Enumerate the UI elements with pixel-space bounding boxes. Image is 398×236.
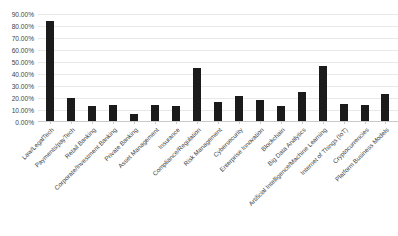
x-axis-tick [281,122,282,124]
bar-slot [82,14,103,122]
x-axis-tick [218,122,219,124]
bar[interactable] [109,105,117,122]
y-axis-tick-label: 20.00% [12,95,34,102]
bar-slot [166,14,187,122]
x-axis-tick [92,122,93,124]
bar-slot [187,14,208,122]
bar-slot [124,14,145,122]
x-axis-tick [71,122,72,124]
y-axis-tick-label: 30.00% [12,83,34,90]
x-axis-tick [385,122,386,124]
y-axis-tick-label: 10.00% [12,107,34,114]
bar-chart: 90.00%80.00%70.00%60.00%50.00%40.00%30.0… [0,0,398,236]
y-axis-tick-label: 60.00% [12,47,34,54]
y-axis-tick-label: 40.00% [12,71,34,78]
bar[interactable] [214,102,222,122]
bar[interactable] [277,106,285,122]
bars-layer [38,14,398,122]
bar[interactable] [340,104,348,122]
bar-slot [208,14,229,122]
x-axis-tick [260,122,261,124]
bar[interactable] [319,66,327,122]
x-axis-tick [50,122,51,124]
bar-slot [375,14,396,122]
x-axis-tick [197,122,198,124]
x-axis-tick [323,122,324,124]
x-axis-tick [134,122,135,124]
bar-slot [354,14,375,122]
bar-slot [40,14,61,122]
x-axis-tick [302,122,303,124]
x-axis-tick [239,122,240,124]
bar-slot [61,14,82,122]
x-axis-tick [344,122,345,124]
y-axis-tick-label: 90.00% [12,11,34,18]
bar[interactable] [67,98,75,122]
y-axis-tick-label: 0.00% [15,119,34,126]
bar[interactable] [256,100,264,122]
y-axis-tick-label: 70.00% [12,35,34,42]
bar-slot [103,14,124,122]
bar[interactable] [361,105,369,122]
bar[interactable] [46,21,54,122]
bar-slot [312,14,333,122]
bar-slot [270,14,291,122]
bar[interactable] [172,106,180,122]
x-axis-slot: Platform Business Models [375,122,396,236]
bar-slot [291,14,312,122]
x-axis-tick [113,122,114,124]
y-axis-tick-label: 80.00% [12,23,34,30]
bar[interactable] [151,105,159,122]
y-axis: 90.00%80.00%70.00%60.00%50.00%40.00%30.0… [0,0,38,236]
bar-slot [249,14,270,122]
bar-slot [228,14,249,122]
bar[interactable] [235,96,243,122]
y-axis-tick-label: 50.00% [12,59,34,66]
x-axis-tick [176,122,177,124]
x-axis: Law/LegalTechPayments/payTechRetail Bank… [38,122,398,236]
x-axis-tick [365,122,366,124]
x-axis-tick [155,122,156,124]
bar-slot [333,14,354,122]
bar[interactable] [88,106,96,122]
bar[interactable] [381,94,389,122]
bar[interactable] [193,68,201,122]
bar-slot [145,14,166,122]
plot-area [38,14,398,122]
bar[interactable] [298,92,306,122]
